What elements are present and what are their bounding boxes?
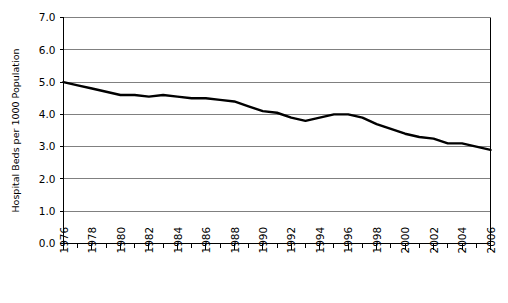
y-tick-label: 7.0 — [39, 11, 56, 23]
x-tick-label: 1992 — [285, 227, 297, 254]
data-series-line — [64, 82, 491, 150]
x-tick-label: 1986 — [200, 226, 212, 253]
y-tick-label: 3.0 — [39, 140, 56, 152]
y-tick-label: 1.0 — [39, 205, 56, 217]
x-tick-label: 1976 — [58, 226, 70, 253]
x-tick-label: 2002 — [428, 227, 440, 254]
x-tick-label: 1988 — [229, 227, 241, 254]
x-tick-label: 2000 — [399, 227, 411, 254]
x-tick-label: 1996 — [342, 226, 354, 253]
y-tick-label: 6.0 — [39, 44, 56, 56]
x-tick-label: 1994 — [314, 226, 326, 253]
x-tick-label: 1980 — [115, 227, 127, 254]
y-tick-label: 5.0 — [39, 76, 56, 88]
x-tick-label: 1978 — [86, 227, 98, 254]
chart-container: 0.01.02.03.04.05.06.07.01976197819801982… — [0, 0, 508, 303]
x-tick-label: 1998 — [371, 227, 383, 254]
y-tick-label: 0.0 — [39, 237, 56, 249]
line-chart: 0.01.02.03.04.05.06.07.01976197819801982… — [0, 0, 508, 303]
y-tick-label: 2.0 — [39, 173, 56, 185]
x-tick-label: 2004 — [456, 226, 468, 253]
x-tick-label: 1982 — [143, 227, 155, 254]
x-tick-label: 1984 — [172, 226, 184, 253]
y-tick-label: 4.0 — [39, 108, 56, 120]
x-tick-label: 2006 — [485, 226, 497, 253]
x-tick-label: 1990 — [257, 227, 269, 254]
y-axis-title: Hospital Beds per 1000 Population — [10, 48, 21, 212]
